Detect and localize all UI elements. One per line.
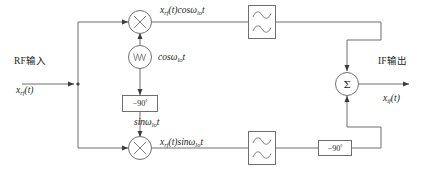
wire-layer: [0, 0, 425, 177]
if-output-signal: xif(t): [383, 94, 400, 105]
filter-response-icon: [249, 132, 275, 164]
upper-mixer[interactable]: [128, 10, 152, 34]
lower-mixer[interactable]: [128, 136, 152, 160]
multiply-icon: [129, 10, 151, 34]
lo-phase-shifter[interactable]: −90°: [122, 95, 158, 112]
lower-bandpass-filter[interactable]: [248, 131, 276, 165]
if-phase-shifter-label: −90°: [328, 144, 343, 153]
multiply-icon: [129, 136, 151, 160]
summer-label: Σ: [343, 79, 350, 90]
block-diagram-canvas: −90° −90° Σ RF输入 xrf(t) IF输出 xif(t) xrf(…: [0, 0, 425, 177]
lo-quadrature-label: sinωlot: [134, 118, 160, 129]
if-output-label: IF输出: [378, 57, 407, 67]
upper-branch-label: xrf(t)cosωlot: [160, 6, 205, 17]
if-phase-shifter[interactable]: −90°: [318, 140, 352, 156]
oscillator-label: cosωlot: [158, 53, 185, 64]
filter-response-icon: [249, 6, 275, 38]
lo-phase-shifter-label: −90°: [133, 99, 148, 108]
junction-dots: [76, 82, 79, 85]
local-oscillator[interactable]: [128, 45, 152, 69]
summer[interactable]: Σ: [335, 72, 359, 96]
rf-input-label: RF输入: [14, 57, 46, 67]
rf-input-signal: xrf(t): [16, 86, 34, 97]
upper-bandpass-filter[interactable]: [248, 5, 276, 39]
junction-dot-split: [76, 82, 79, 85]
lower-branch-label: xrf(t)sinωlot: [160, 138, 203, 149]
waveform-icon: [129, 45, 151, 69]
